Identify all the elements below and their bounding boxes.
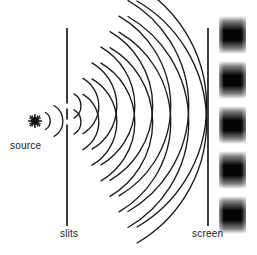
starburst-icon: [29, 115, 42, 128]
screen-label: screen: [192, 228, 223, 239]
source-label: source: [10, 140, 41, 151]
fringe-band: [219, 61, 246, 99]
fringe-band: [219, 106, 246, 144]
fringe-band: [219, 16, 246, 54]
fringe-band: [219, 151, 246, 189]
slits-label: slits: [60, 228, 78, 239]
incident-wavefronts: [46, 106, 63, 137]
double-slit-interference-diagram: source slits screen: [0, 0, 257, 255]
